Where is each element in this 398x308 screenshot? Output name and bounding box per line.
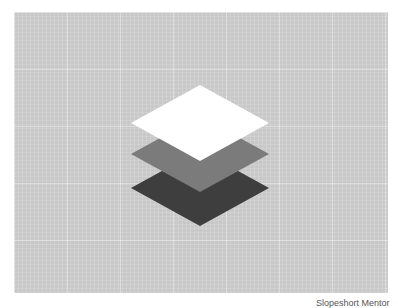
image-caption: Slopeshort Mentor — [316, 298, 390, 308]
layers-icon — [0, 0, 398, 308]
